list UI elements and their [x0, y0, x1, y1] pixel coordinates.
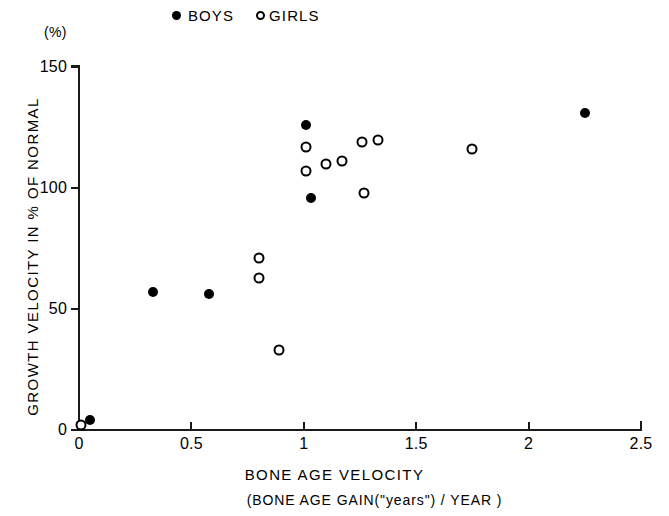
x-axis-title: BONE AGE VELOCITY: [0, 466, 669, 483]
scatter-plot-figure: (%) BOYS GIRLS 050100150 00.511.522.5 GR…: [0, 0, 669, 516]
x-tick-label: 1: [299, 436, 308, 452]
x-tick-mark: [190, 422, 192, 431]
data-point-girls: [301, 166, 312, 177]
x-tick-label: 2: [524, 436, 533, 452]
x-tick-label: 0: [74, 436, 83, 452]
data-point-girls: [253, 272, 264, 283]
data-point-boys: [580, 108, 590, 118]
data-point-girls: [467, 144, 478, 155]
data-point-girls: [357, 137, 368, 148]
x-tick-mark: [303, 422, 305, 431]
y-tick-mark: [71, 66, 79, 68]
filled-circle-icon: [172, 11, 181, 20]
y-axis-unit-label: (%): [44, 24, 67, 40]
plot-area: [0, 0, 669, 516]
data-point-girls: [321, 158, 332, 169]
data-point-boys: [306, 193, 316, 203]
x-tick-label: 2.5: [630, 436, 653, 452]
x-axis-subtitle: (BONE AGE GAIN("years") / YEAR ): [40, 492, 669, 508]
data-point-boys: [85, 415, 95, 425]
legend-entry-boys: BOYS: [172, 8, 234, 23]
x-tick-label: 1.5: [405, 436, 428, 452]
x-tick-label: 0.5: [180, 436, 203, 452]
x-tick-mark: [415, 422, 417, 431]
x-tick-mark: [78, 422, 80, 431]
data-point-boys: [148, 287, 158, 297]
open-circle-icon: [256, 11, 265, 20]
legend-entry-girls: GIRLS: [256, 8, 320, 23]
data-point-boys: [301, 120, 311, 130]
legend-label-girls: GIRLS: [269, 8, 320, 23]
y-tick-mark: [71, 308, 79, 310]
y-axis-line: [78, 65, 80, 431]
data-point-girls: [372, 134, 383, 145]
legend-label-boys: BOYS: [188, 8, 234, 23]
y-tick-mark: [71, 187, 79, 189]
data-point-girls: [337, 156, 348, 167]
data-point-boys: [204, 289, 214, 299]
data-point-girls: [274, 345, 285, 356]
y-axis-title: GROWTH VELOCITY IN % OF NORMAL: [24, 67, 41, 447]
data-point-girls: [359, 187, 370, 198]
x-axis-line: [78, 429, 642, 431]
legend: BOYS GIRLS: [172, 8, 320, 23]
data-point-girls: [253, 253, 264, 264]
x-tick-mark: [528, 422, 530, 431]
data-point-girls: [301, 141, 312, 152]
x-tick-mark: [640, 422, 642, 431]
